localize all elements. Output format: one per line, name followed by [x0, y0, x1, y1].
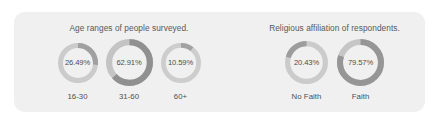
gauge-value-faith: 79.57% [337, 39, 384, 86]
chart-title-age-ranges: Age ranges of people surveyed. [14, 23, 244, 33]
chart-title-religious-affiliation: Religious affiliation of respondents. [244, 23, 425, 33]
donut-ring-age-60-plus: 10.59% [161, 43, 201, 83]
donut-ring-age-31-60: 62.91% [106, 39, 153, 86]
gauge-label-no-faith: No Faith [292, 92, 322, 101]
gauge-value-age-31-60: 62.91% [106, 39, 153, 86]
gauge-label-age-60-plus: 60+ [174, 92, 187, 101]
gauge-value-no-faith: 20.43% [285, 41, 328, 84]
gauge-label-age-16-30: 16-30 [67, 92, 87, 101]
donut-ring-faith: 79.57% [337, 39, 384, 86]
gauge-value-age-60-plus: 10.59% [161, 43, 201, 83]
gauge-value-age-16-30: 26.49% [58, 43, 98, 83]
gauge-age-60-plus[interactable]: 10.59%60+ [161, 43, 201, 102]
gauge-row-religious-affiliation: 20.43%No Faith79.57%Faith [244, 39, 425, 111]
gauge-row-age-ranges: 26.49%16-3062.91%31-6010.59%60+ [14, 39, 244, 111]
chart-group-age-ranges: Age ranges of people surveyed. 26.49%16-… [14, 12, 244, 112]
gauge-faith[interactable]: 79.57%Faith [337, 39, 384, 101]
donut-ring-no-faith: 20.43% [285, 41, 328, 84]
gauge-age-31-60[interactable]: 62.91%31-60 [106, 39, 153, 101]
gauge-age-16-30[interactable]: 26.49%16-30 [58, 43, 98, 102]
gauge-label-faith: Faith [352, 92, 370, 101]
chart-panel: Age ranges of people surveyed. 26.49%16-… [14, 12, 425, 112]
donut-ring-age-16-30: 26.49% [58, 43, 98, 83]
gauge-no-faith[interactable]: 20.43%No Faith [285, 41, 328, 101]
chart-group-religious-affiliation: Religious affiliation of respondents. 20… [244, 12, 425, 112]
gauge-label-age-31-60: 31-60 [119, 92, 139, 101]
